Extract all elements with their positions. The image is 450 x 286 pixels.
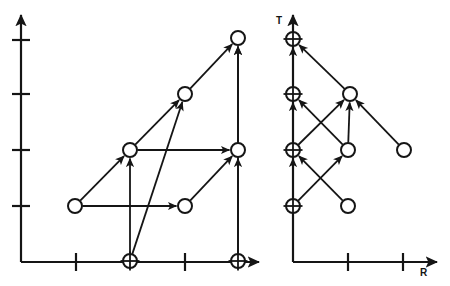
right-graph-panel-x-axis-label: R: [420, 267, 428, 278]
figure-canvas: TR: [0, 0, 450, 286]
open-circle-node-L2: [123, 143, 137, 157]
circle-outline: [178, 199, 192, 213]
circle-outline: [341, 199, 355, 213]
circle-outline: [341, 143, 355, 157]
edge-L3-to-L5: [190, 156, 232, 200]
circle-outline: [343, 87, 357, 101]
edge-L7-to-L4: [132, 102, 182, 254]
circle-outline: [231, 31, 245, 45]
edge-L2-to-L4: [135, 100, 179, 145]
circle-outline: [123, 143, 137, 157]
open-circle-node-R5: [341, 199, 355, 213]
circle-outline: [68, 199, 82, 213]
open-circle-node-R6: [341, 143, 355, 157]
edge-L4-to-L6: [190, 44, 232, 88]
circled-plus-node-L7: [121, 252, 140, 271]
right-graph-panel-y-axis-label: T: [276, 15, 282, 26]
edge-L1-to-L2: [80, 156, 124, 201]
open-circle-node-L6: [231, 31, 245, 45]
circle-outline: [397, 143, 411, 157]
circle-outline: [178, 87, 192, 101]
open-circle-node-L1: [68, 199, 82, 213]
circle-outline: [231, 143, 245, 157]
open-circle-node-L5: [231, 143, 245, 157]
two-panel-directed-graph-figure: TR: [0, 0, 450, 286]
circled-plus-node-L8: [229, 252, 248, 271]
open-circle-node-R7: [343, 87, 357, 101]
edge-R6-to-R7: [348, 102, 349, 142]
open-circle-node-L4: [178, 87, 192, 101]
open-circle-node-R8: [397, 143, 411, 157]
edge-R8-to-R7: [356, 100, 399, 144]
open-circle-node-L3: [178, 199, 192, 213]
edge-R7-to-R4: [299, 45, 344, 89]
nodes-layer: [68, 30, 411, 271]
